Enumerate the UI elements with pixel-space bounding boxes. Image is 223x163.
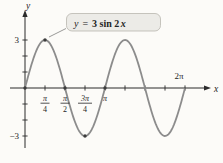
y-tick-label-3: 3 <box>15 35 20 45</box>
fraction-denominator: 4 <box>83 105 87 114</box>
y-tick-label-neg3: −3 <box>9 131 19 141</box>
figure-graph-3sin2x: π4π23π4π y x 3 −3 2π y=3 sin 2x <box>0 0 223 163</box>
x-axis-arrow-icon <box>204 85 211 90</box>
x-tick-label-3π/4: 3π4 <box>78 94 92 114</box>
key-point-dot <box>63 86 66 89</box>
sine-graph-canvas: π4π23π4π y x 3 −3 2π y=3 sin 2x <box>0 0 223 163</box>
key-point-dot <box>83 134 86 137</box>
y-axis-arrow-icon <box>22 10 27 17</box>
equation-coefficient: 3 sin 2 <box>92 18 119 29</box>
x-tick-label-π: π <box>103 94 108 103</box>
fraction-numerator: 3π <box>80 94 90 103</box>
x-tick-label-π/4: π4 <box>41 94 50 114</box>
fraction-denominator: 4 <box>43 105 47 114</box>
y-axis-label: y <box>25 1 31 11</box>
x-tick-label-2pi: 2π <box>174 71 184 81</box>
equation-callout: y=3 sin 2x <box>49 14 161 38</box>
key-point-dot <box>23 86 26 89</box>
fraction-numerator: π <box>43 94 48 103</box>
key-point-dot <box>43 38 46 41</box>
key-point-dot <box>103 86 106 89</box>
callout-leader-line <box>49 29 66 38</box>
fraction-denominator: 2 <box>63 105 67 114</box>
equation-equals: = <box>82 18 88 29</box>
equation-var-y: y <box>73 18 79 29</box>
fraction-numerator: π <box>103 94 108 103</box>
x-axis-label: x <box>213 84 219 94</box>
equation-var-x: x <box>120 18 126 29</box>
